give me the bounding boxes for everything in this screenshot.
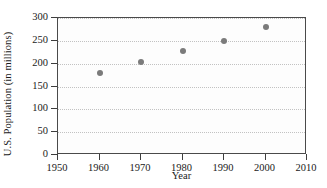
x-tick-1960 — [99, 154, 100, 160]
y-tick-100 — [51, 108, 57, 109]
y-tick-label: 50 — [8, 125, 48, 136]
gridline-y-200 — [58, 64, 305, 65]
plot-area — [57, 17, 306, 154]
data-point — [263, 24, 269, 30]
scatter-chart-figure: U.S. Population (in millions) 0501001502… — [0, 0, 327, 188]
gridline-y-100 — [58, 109, 305, 110]
gridline-y-300 — [58, 18, 305, 19]
gridline-y-250 — [58, 41, 305, 42]
y-tick-label: 150 — [8, 80, 48, 91]
y-tick-label: 300 — [8, 11, 48, 22]
x-tick-1970 — [140, 154, 141, 160]
y-tick-250 — [51, 40, 57, 41]
x-tick-2010 — [306, 154, 307, 160]
y-tick-150 — [51, 86, 57, 87]
data-point — [221, 38, 227, 44]
y-axis-title: U.S. Population (in millions) — [0, 0, 16, 188]
x-tick-2000 — [265, 154, 266, 160]
y-tick-label: 100 — [8, 102, 48, 113]
x-axis-title: Year — [57, 170, 306, 182]
x-tick-1980 — [182, 154, 183, 160]
gridline-y-50 — [58, 132, 305, 133]
x-tick-1950 — [57, 154, 58, 160]
y-tick-50 — [51, 131, 57, 132]
data-point — [180, 48, 186, 54]
y-tick-label: 200 — [8, 57, 48, 68]
y-tick-300 — [51, 17, 57, 18]
y-tick-label: 0 — [8, 148, 48, 159]
gridline-y-150 — [58, 87, 305, 88]
y-tick-label: 250 — [8, 34, 48, 45]
x-tick-1990 — [223, 154, 224, 160]
data-point — [97, 70, 103, 76]
y-tick-200 — [51, 63, 57, 64]
